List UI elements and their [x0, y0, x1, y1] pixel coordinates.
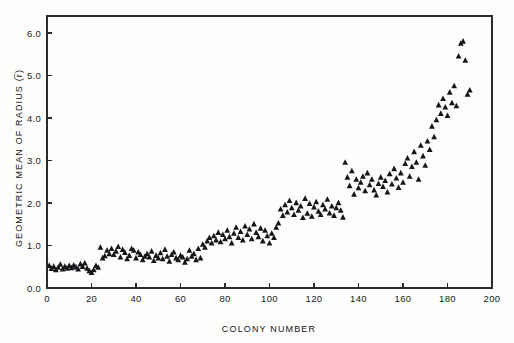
data-point	[215, 229, 221, 235]
data-point	[289, 205, 295, 211]
data-point	[218, 239, 224, 245]
data-point	[233, 224, 239, 230]
figure-container: 020406080100120140160180200 0.01.02.03.0…	[0, 0, 514, 343]
data-point	[198, 255, 204, 261]
data-point	[387, 171, 393, 177]
data-point	[98, 244, 104, 250]
data-point	[402, 161, 408, 167]
data-point	[115, 243, 121, 249]
data-point	[109, 246, 115, 252]
x-tick-label: 180	[439, 293, 456, 304]
data-point	[433, 117, 439, 123]
data-point	[133, 255, 139, 261]
data-point	[287, 197, 293, 203]
x-tick-label: 140	[350, 293, 367, 304]
data-point	[162, 246, 168, 252]
y-tick-label: 5.0	[27, 70, 41, 81]
data-point	[280, 212, 286, 218]
data-point	[307, 200, 313, 206]
scatter-plot: 020406080100120140160180200 0.01.02.03.0…	[0, 0, 514, 343]
data-point	[267, 240, 273, 246]
data-point	[293, 200, 299, 206]
data-point	[313, 199, 319, 205]
x-tick-label: 40	[130, 293, 141, 304]
data-point	[349, 168, 355, 174]
x-tick-label: 60	[175, 293, 186, 304]
x-tick-label: 0	[44, 293, 50, 304]
data-point	[171, 249, 177, 255]
data-point	[391, 166, 397, 172]
data-point	[244, 231, 250, 237]
data-point	[193, 257, 199, 263]
x-tick-label: 200	[484, 293, 501, 304]
data-point	[227, 234, 233, 240]
y-axis-ticks: 0.01.02.03.04.05.06.0	[27, 28, 52, 294]
data-point	[420, 153, 426, 159]
data-point	[462, 57, 468, 63]
plot-frame	[47, 16, 492, 288]
data-point	[57, 261, 63, 267]
data-point	[380, 183, 386, 189]
x-tick-label: 120	[306, 293, 323, 304]
x-axis-ticks: 020406080100120140160180200	[44, 283, 500, 304]
data-point	[342, 159, 348, 165]
y-tick-label: 2.0	[27, 198, 41, 209]
data-point	[396, 184, 402, 190]
y-tick-label: 0.0	[27, 283, 41, 294]
data-point	[347, 183, 353, 189]
data-point	[333, 205, 339, 211]
data-point	[451, 83, 457, 89]
data-point	[340, 214, 346, 220]
y-tick-label: 1.0	[27, 240, 41, 251]
data-point	[431, 134, 437, 140]
data-point	[276, 220, 282, 226]
data-point	[358, 179, 364, 185]
y-tick-label: 4.0	[27, 113, 41, 124]
data-point	[344, 174, 350, 180]
data-point	[442, 104, 448, 110]
data-point	[416, 176, 422, 182]
data-point	[436, 102, 442, 108]
data-point	[385, 189, 391, 195]
data-point	[327, 210, 333, 216]
data-point	[429, 123, 435, 129]
data-point	[187, 247, 193, 253]
x-tick-label: 100	[261, 293, 278, 304]
data-point	[445, 112, 451, 118]
data-point	[398, 170, 404, 176]
data-point	[304, 210, 310, 216]
data-point	[126, 252, 132, 258]
data-point	[311, 204, 317, 210]
data-point	[356, 185, 362, 191]
data-point	[422, 162, 428, 168]
data-point	[360, 173, 366, 179]
data-point	[351, 191, 357, 197]
x-tick-label: 80	[219, 293, 230, 304]
data-point	[413, 159, 419, 165]
data-point	[258, 225, 264, 231]
data-point	[400, 179, 406, 185]
data-point	[373, 192, 379, 198]
data-point	[405, 155, 411, 161]
data-point	[407, 173, 413, 179]
data-point	[393, 175, 399, 181]
x-axis-label: COLONY NUMBER	[222, 324, 316, 334]
data-points	[46, 38, 472, 275]
data-point	[382, 178, 388, 184]
data-point	[418, 142, 424, 148]
data-point	[302, 195, 308, 201]
data-point	[353, 176, 359, 182]
y-tick-label: 6.0	[27, 28, 41, 39]
data-point	[158, 250, 164, 256]
data-point	[440, 95, 446, 101]
data-point	[247, 226, 253, 232]
data-point	[229, 240, 235, 246]
data-point	[224, 227, 230, 233]
data-point	[191, 251, 197, 257]
y-tick-label: 3.0	[27, 155, 41, 166]
data-point	[362, 188, 368, 194]
data-point	[369, 176, 375, 182]
data-point	[376, 180, 382, 186]
data-point	[324, 196, 330, 202]
data-point	[365, 170, 371, 176]
